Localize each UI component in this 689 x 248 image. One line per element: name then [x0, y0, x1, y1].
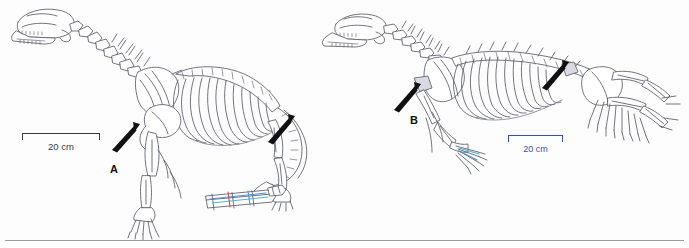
- thoracic-spine-b: [452, 42, 600, 82]
- arrow-a-pelvis: [112, 122, 140, 153]
- arrow-b-shoulder: [394, 82, 421, 113]
- skeleton-a: [12, 9, 307, 240]
- scale-bar-b: 20 cm: [508, 135, 563, 155]
- skull-a: [12, 9, 75, 44]
- skull-b: [322, 14, 386, 47]
- footer-divider: [5, 240, 684, 241]
- scale-bar-b-rule: [508, 135, 563, 142]
- hindlimb-a: [128, 132, 181, 240]
- thoracic-spine-a: [172, 67, 280, 112]
- scale-bar-a-label: 20 cm: [22, 141, 100, 153]
- panel-label-a: A: [110, 164, 118, 175]
- skeleton-b: [322, 14, 680, 174]
- skeleton-illustration: .bone{fill:#ffffff;stroke:#5b5b6b;stroke…: [0, 0, 689, 248]
- panel-label-b: B: [410, 115, 418, 126]
- scale-bar-a: 20 cm: [22, 133, 100, 153]
- figure-plate: .bone{fill:#ffffff;stroke:#5b5b6b;stroke…: [0, 0, 689, 248]
- forelimb-b: [416, 90, 487, 174]
- vertebral-column-a: [70, 21, 150, 77]
- scale-bar-a-rule: [22, 133, 100, 140]
- scale-bar-b-label: 20 cm: [508, 143, 563, 155]
